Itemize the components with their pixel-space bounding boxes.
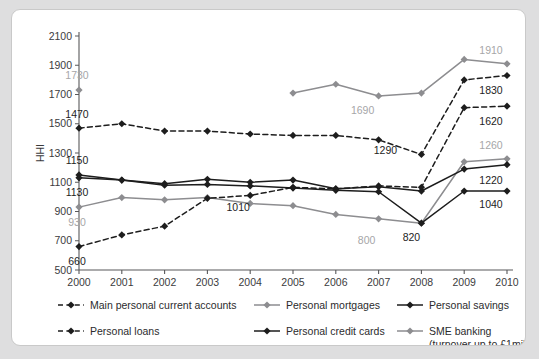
- legend-item[interactable]: Personal loans: [58, 325, 159, 337]
- legend-label: Personal loans: [90, 325, 159, 337]
- data-point-marker: [332, 81, 339, 88]
- data-point-marker: [289, 132, 296, 139]
- data-point-marker: [503, 161, 510, 168]
- data-point-marker: [118, 176, 125, 183]
- data-label: 1830: [479, 84, 503, 96]
- legend-label: SME banking: [429, 325, 492, 337]
- y-axis-tick-label: 1700: [49, 88, 73, 100]
- legend-item[interactable]: Personal credit cards: [254, 325, 385, 337]
- x-axis-tick-label: 2005: [281, 276, 305, 288]
- series-line-5: [293, 59, 507, 96]
- x-axis-tick-label: 2008: [410, 276, 434, 288]
- data-label: 660: [68, 255, 86, 267]
- data-point-marker: [118, 120, 125, 127]
- data-point-marker: [75, 243, 82, 250]
- data-label: 1130: [66, 186, 89, 198]
- chart-card: 5007009001100130015001700190021002000200…: [11, 9, 526, 346]
- legend-marker-icon: [67, 301, 74, 308]
- data-point-marker: [161, 127, 168, 134]
- data-label: 1470: [65, 108, 89, 120]
- data-label: 1040: [479, 198, 503, 210]
- x-axis-tick-label: 2010: [495, 276, 519, 288]
- x-axis-tick-label: 2000: [67, 276, 91, 288]
- data-label: 1690: [351, 104, 375, 116]
- data-label: 1730: [65, 69, 89, 81]
- data-point-marker: [204, 127, 211, 134]
- data-point-marker: [332, 132, 339, 139]
- data-point-marker: [289, 185, 296, 192]
- x-axis-tick-label: 2002: [153, 276, 177, 288]
- data-point-marker: [75, 204, 82, 211]
- series-line-0: [79, 75, 507, 154]
- x-axis-tick-label: 2006: [324, 276, 348, 288]
- legend-marker-icon: [406, 327, 413, 334]
- x-axis-tick-label: 2003: [196, 276, 220, 288]
- data-point-marker: [461, 76, 468, 83]
- legend-item[interactable]: Personal savings: [397, 299, 509, 311]
- data-label: 1150: [66, 154, 89, 166]
- data-point-marker: [247, 130, 254, 137]
- legend-label: Personal mortgages: [286, 299, 380, 311]
- data-point-marker: [289, 89, 296, 96]
- data-point-marker: [503, 72, 510, 79]
- data-point-marker: [503, 60, 510, 67]
- series-line-3: [79, 106, 507, 246]
- data-point-marker: [503, 103, 510, 110]
- data-label: 930: [68, 216, 86, 228]
- data-point-marker: [161, 223, 168, 230]
- legend-marker-icon: [263, 327, 270, 334]
- data-point-marker: [75, 125, 82, 132]
- data-point-marker: [289, 202, 296, 209]
- data-point-marker: [75, 87, 82, 94]
- data-point-marker: [461, 104, 468, 111]
- legend-label: Personal savings: [429, 299, 509, 311]
- legend-marker-icon: [67, 327, 74, 334]
- legend-marker-icon: [263, 301, 270, 308]
- y-axis-tick-label: 2100: [49, 30, 73, 42]
- data-label: 1010: [227, 201, 251, 213]
- legend-item[interactable]: SME banking(turnover up to £1mil): [397, 325, 526, 346]
- data-point-marker: [332, 211, 339, 218]
- data-point-marker: [375, 215, 382, 222]
- legend-item[interactable]: Personal mortgages: [254, 299, 380, 311]
- data-point-marker: [118, 231, 125, 238]
- data-label: 820: [403, 231, 421, 243]
- data-label: 1220: [479, 174, 503, 186]
- data-label: 1620: [479, 115, 503, 127]
- y-axis-title: HHI: [34, 144, 46, 162]
- data-label: 1290: [374, 144, 398, 156]
- legend-label: Personal credit cards: [286, 325, 385, 337]
- data-point-marker: [161, 196, 168, 203]
- legend-sublabel: (turnover up to £1mil): [429, 338, 526, 347]
- data-point-marker: [418, 151, 425, 158]
- data-point-marker: [375, 136, 382, 143]
- legend-marker-icon: [406, 301, 413, 308]
- data-label: 800: [358, 234, 376, 246]
- x-axis-tick-label: 2001: [110, 276, 134, 288]
- chart-plot-area: 5007009001100130015001700190021002000200…: [12, 10, 526, 346]
- x-axis-tick-label: 2004: [239, 276, 263, 288]
- legend-label: Main personal current accounts: [90, 299, 237, 311]
- data-point-marker: [503, 187, 510, 194]
- x-axis-tick-label: 2009: [453, 276, 477, 288]
- data-point-marker: [247, 192, 254, 199]
- data-point-marker: [247, 182, 254, 189]
- data-label: 1910: [479, 44, 503, 56]
- line-chart: 5007009001100130015001700190021002000200…: [12, 10, 526, 346]
- data-point-marker: [375, 92, 382, 99]
- x-axis-tick-label: 2007: [367, 276, 391, 288]
- data-point-marker: [289, 176, 296, 183]
- data-point-marker: [204, 181, 211, 188]
- data-label: 1260: [479, 139, 503, 151]
- legend-item[interactable]: Main personal current accounts: [58, 299, 237, 311]
- y-axis-tick-label: 700: [54, 234, 72, 246]
- data-point-marker: [118, 194, 125, 201]
